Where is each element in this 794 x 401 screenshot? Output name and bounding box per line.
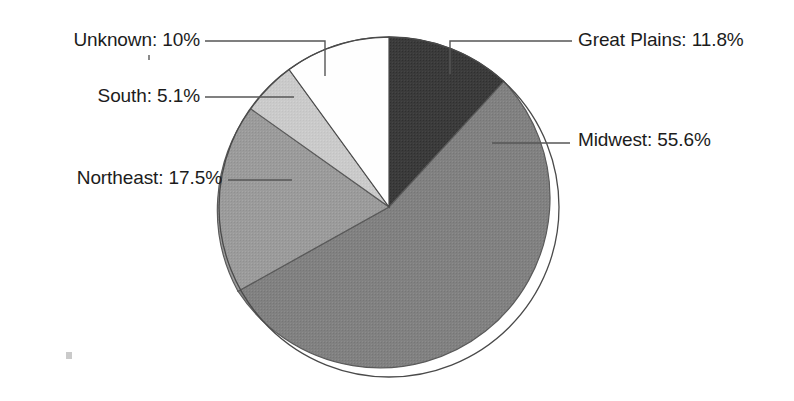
pie-label-great-plains: Great Plains: 11.8%	[578, 29, 744, 51]
pie-label-south: South: 5.1%	[62, 85, 200, 107]
pie-label-midwest: Midwest: 55.6%	[578, 129, 711, 151]
pie-chart-svg	[0, 0, 794, 401]
pie-label-unknown: Unknown: 10%	[42, 29, 200, 51]
scan-artifact-speck	[66, 352, 72, 359]
pie-label-northeast: Northeast: 17.5%	[22, 167, 222, 189]
scan-artifact-mark	[148, 55, 150, 60]
pie-chart-figure: Unknown: 10% South: 5.1% Northeast: 17.5…	[0, 0, 794, 401]
